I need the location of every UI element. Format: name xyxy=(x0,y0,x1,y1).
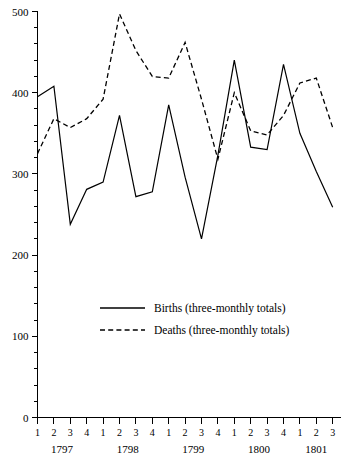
series-line-births xyxy=(38,60,333,239)
x-axis-year-label: 1801 xyxy=(305,443,327,455)
x-axis-year-label: 1799 xyxy=(182,443,205,455)
line-chart: 0100200300400500 12341234123412341231797… xyxy=(0,0,361,465)
x-axis-quarter-label: 2 xyxy=(248,427,253,438)
x-axis-quarter-label: 3 xyxy=(330,427,335,438)
x-axis-year-label: 1800 xyxy=(248,443,271,455)
x-axis-quarter-label: 2 xyxy=(183,427,188,438)
x-axis-quarter-label: 4 xyxy=(281,427,286,438)
x-axis-quarter-label: 1 xyxy=(232,427,237,438)
x-axis-year-label: 1797 xyxy=(51,443,74,455)
y-axis-tick-label: 500 xyxy=(12,6,29,18)
legend-label-births: Births (three-monthly totals) xyxy=(154,302,286,315)
x-axis: 123412341234123412317971798179918001801 xyxy=(35,418,341,455)
x-axis-quarter-label: 1 xyxy=(35,427,40,438)
x-axis-year-label: 1798 xyxy=(117,443,140,455)
x-axis-quarter-label: 3 xyxy=(199,427,204,438)
x-axis-quarter-label: 1 xyxy=(297,427,302,438)
chart-legend: Births (three-monthly totals)Deaths (thr… xyxy=(100,302,290,337)
legend-label-deaths: Deaths (three-monthly totals) xyxy=(154,324,290,337)
x-axis-quarter-label: 1 xyxy=(101,427,106,438)
x-axis-quarter-label: 3 xyxy=(265,427,270,438)
y-axis-tick-label: 100 xyxy=(12,330,29,342)
x-axis-quarter-label: 3 xyxy=(133,427,138,438)
x-axis-quarter-label: 2 xyxy=(51,427,56,438)
x-axis-quarter-label: 4 xyxy=(150,427,155,438)
data-series-group xyxy=(38,14,333,239)
y-axis-tick-label: 200 xyxy=(12,249,29,261)
y-axis-tick-label: 0 xyxy=(23,412,29,424)
x-axis-quarter-label: 3 xyxy=(68,427,73,438)
x-axis-quarter-label: 4 xyxy=(215,427,220,438)
y-axis-tick-label: 400 xyxy=(12,87,29,99)
x-axis-quarter-label: 2 xyxy=(117,427,122,438)
chart-container: 0100200300400500 12341234123412341231797… xyxy=(0,0,361,465)
x-axis-quarter-label: 4 xyxy=(84,427,89,438)
x-axis-quarter-label: 1 xyxy=(166,427,171,438)
y-axis: 0100200300400500 xyxy=(12,6,38,424)
y-axis-tick-label: 300 xyxy=(12,168,29,180)
x-axis-quarter-label: 2 xyxy=(314,427,319,438)
